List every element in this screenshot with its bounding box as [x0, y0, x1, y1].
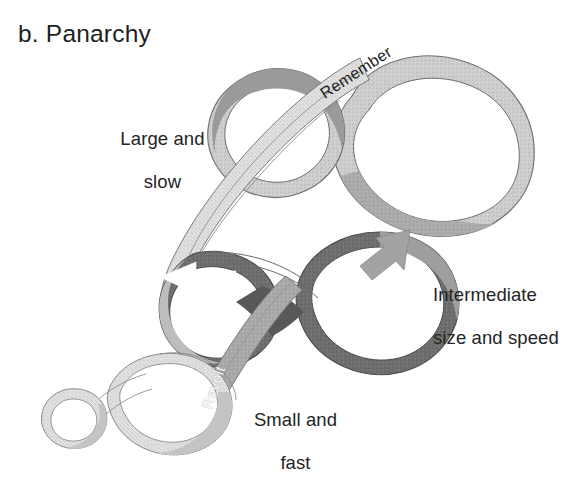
label-small-and-fast-line1: Small and	[254, 409, 337, 430]
label-small-and-fast: Small and fast	[226, 387, 344, 480]
small-loop-left-inner	[51, 399, 97, 441]
page-title: b. Panarchy	[18, 20, 151, 49]
label-large-and-slow-line2: slow	[144, 171, 181, 192]
label-intermediate-size-and-speed: Intermediate size and speed	[412, 262, 562, 371]
label-large-and-slow-line1: Large and	[120, 128, 204, 149]
label-intermediate-line1: Intermediate	[433, 284, 537, 305]
label-small-and-fast-line2: fast	[280, 452, 310, 473]
label-large-and-slow: Large and slow	[92, 106, 212, 215]
label-intermediate-line2: size and speed	[433, 327, 559, 348]
